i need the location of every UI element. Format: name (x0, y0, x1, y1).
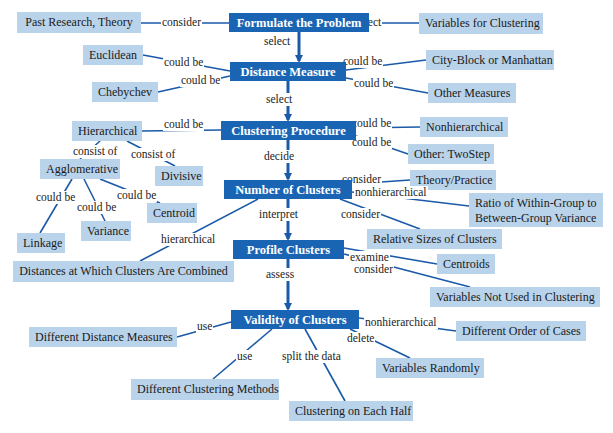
relationship-label: use (196, 320, 213, 333)
concept-node-relsizes: Relative Sizes of Clusters (367, 229, 502, 249)
concept-node-diffmethods: Different Clustering Methods (131, 379, 279, 400)
flow-step-label: decide (263, 150, 295, 163)
connector-line (305, 329, 345, 401)
relationship-label: could be (35, 191, 76, 204)
concept-node-past: Past Research, Theory (17, 12, 141, 33)
process-step-procedure: Clustering Procedure (221, 121, 356, 140)
process-step-validity: Validity of Clusters (231, 310, 359, 329)
connector-line (84, 179, 105, 221)
relationship-label: could be (116, 189, 157, 202)
concept-node-distances: Distances at Which Clusters Are Combined (13, 261, 234, 282)
relationship-label: nonhierarchical (364, 316, 438, 329)
relationship-label: hierarchical (160, 233, 216, 246)
relationship-label: delete (346, 332, 375, 345)
concept-node-hierarchical: Hierarchical (72, 121, 142, 141)
concept-node-variance: Variance (81, 221, 131, 241)
concept-node-agglomerative: Agglomerative (40, 159, 120, 179)
flow-step-label: assess (265, 268, 295, 281)
concept-node-diffdist: Different Distance Measures (29, 327, 177, 347)
concept-node-centroids: Centroids (437, 254, 495, 274)
flow-step-label: select (263, 35, 291, 48)
connector-line (40, 179, 72, 233)
concept-node-varrandom: Variables Randomly (376, 358, 484, 378)
flow-step-label: interpret (258, 208, 299, 221)
concept-node-chebychev: Chebychev (92, 82, 158, 102)
concept-node-centroid: Centroid (147, 203, 197, 223)
relationship-label: use (236, 350, 253, 363)
relationship-label: consider (161, 16, 202, 29)
relationship-label: split the data (281, 350, 342, 363)
relationship-label: could be (351, 117, 392, 130)
concept-node-othermeasures: Other Measures (428, 83, 516, 103)
concept-node-linkage: Linkage (17, 233, 65, 253)
concept-node-nonhierarchical: Nonhierarchical (420, 117, 508, 137)
flow-step-label: select (265, 93, 293, 106)
concept-node-divisive: Divisive (155, 166, 203, 186)
process-step-distance: Distance Measure (230, 62, 346, 81)
relationship-label: could be (76, 201, 117, 214)
relationship-label: could be (180, 74, 221, 87)
concept-node-variables: Variables for Clustering (419, 13, 543, 34)
relationship-label: consider (340, 208, 381, 221)
relationship-label: could be (163, 56, 204, 69)
concept-node-diffcases: Different Order of Cases (456, 321, 586, 341)
process-step-number: Number of Clusters (224, 180, 352, 199)
relationship-label: consist of (130, 148, 176, 161)
relationship-label: could be (163, 118, 204, 131)
process-step-formulate: Formulate the Problem (229, 13, 369, 32)
relationship-label: could be (342, 55, 383, 68)
relationship-label: could be (353, 77, 394, 90)
relationship-label: consist of (72, 145, 118, 158)
concept-node-cityblock: City-Block or Manhattan (426, 50, 554, 70)
relationship-label: consider (353, 263, 394, 276)
relationship-label: nonhierarchical (354, 186, 428, 199)
concept-node-eachhalf: Clustering on Each Half (289, 401, 413, 421)
concept-node-othertwostep: Other: TwoStep (408, 144, 494, 164)
concept-node-euclidean: Euclidean (83, 45, 143, 65)
concept-node-ratio: Ratio of Within-Group to Between-Group V… (469, 193, 603, 227)
process-step-profile: Profile Clusters (233, 240, 344, 259)
concept-node-notused: Variables Not Used in Clustering (430, 287, 600, 307)
relationship-label: could be (351, 136, 392, 149)
